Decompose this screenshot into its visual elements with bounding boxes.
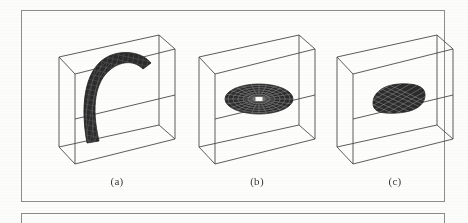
figure-page: (a) — [0, 0, 468, 223]
cube-wireframe-b — [187, 29, 327, 179]
cube-back-edges-c — [337, 35, 453, 74]
panel-caption-c: (c) — [325, 175, 465, 187]
surface-disc-b — [225, 84, 293, 114]
cube-wireframe-a — [47, 29, 187, 179]
cube-bottom-edges-c — [337, 125, 453, 164]
cube-wireframe-c — [325, 29, 465, 179]
figure-frame-next — [21, 213, 445, 223]
figure-frame-main: (a) — [21, 10, 445, 202]
disc-center-hole-b — [256, 97, 263, 101]
surface-hook-a — [80, 52, 151, 147]
panel-caption-a: (a) — [47, 175, 187, 187]
cube-bottom-edges-b — [199, 125, 315, 164]
figure-panel-c: (c) — [325, 29, 465, 205]
panel-caption-b: (b) — [187, 175, 327, 187]
figure-panel-b: (b) — [187, 29, 327, 205]
figure-panel-a: (a) — [47, 29, 187, 205]
cube-bottom-edges-a — [59, 125, 175, 164]
cube-back-edges-b — [199, 35, 315, 74]
